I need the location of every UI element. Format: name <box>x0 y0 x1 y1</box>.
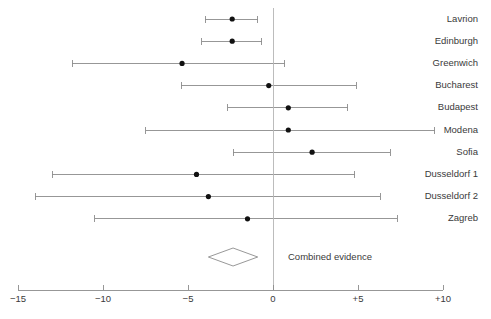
point-estimate-marker <box>179 61 184 66</box>
forest-row-label: Lavrion <box>447 13 478 24</box>
x-axis-tick-label: −5 <box>183 293 194 304</box>
summary-label: Combined evidence <box>288 251 372 262</box>
point-estimate-marker <box>230 16 235 21</box>
point-estimate-marker <box>286 105 291 110</box>
x-axis-tick-label: −10 <box>95 293 111 304</box>
x-axis-tick-label: −15 <box>10 293 26 304</box>
forest-row <box>72 60 285 67</box>
x-axis-tick-label: 0 <box>270 293 275 304</box>
forest-row-label: Sofia <box>456 146 478 157</box>
x-axis-group: −15−10−50+5+10 <box>10 285 451 304</box>
point-estimate-marker <box>206 194 211 199</box>
summary-diamond <box>208 248 257 266</box>
forest-plot-canvas: −15−10−50+5+10 LavrionEdinburghGreenwich… <box>0 0 491 319</box>
forest-row <box>95 215 398 222</box>
row-labels-group: LavrionEdinburghGreenwichBucharestBudape… <box>288 13 479 262</box>
point-estimate-marker <box>230 39 235 44</box>
point-estimate-marker <box>245 216 250 221</box>
forest-row-label: Modena <box>444 124 479 135</box>
summary-diamond-group <box>208 248 257 266</box>
forest-row <box>202 38 262 45</box>
forest-row <box>35 193 380 200</box>
forest-row-label: Greenwich <box>433 57 478 68</box>
point-estimate-marker <box>286 127 291 132</box>
point-estimate-marker <box>266 83 271 88</box>
point-estimate-marker <box>194 172 199 177</box>
forest-row-label: Dusseldorf 1 <box>425 168 478 179</box>
forest-row-label: Budapest <box>438 101 479 112</box>
x-axis-tick-label: +10 <box>435 293 451 304</box>
forest-row <box>146 127 435 134</box>
forest-row <box>52 171 355 178</box>
forest-row <box>181 82 356 89</box>
x-axis-tick-label: +5 <box>353 293 364 304</box>
forest-row-label: Zagreb <box>448 212 478 223</box>
point-estimate-marker <box>310 150 315 155</box>
forest-row <box>205 16 258 23</box>
forest-row-label: Dusseldorf 2 <box>425 190 478 201</box>
forest-row-label: Edinburgh <box>435 35 478 46</box>
forest-plot: −15−10−50+5+10 LavrionEdinburghGreenwich… <box>0 0 491 319</box>
ci-rows-group <box>35 16 435 223</box>
forest-row <box>228 104 348 111</box>
forest-row-label: Bucharest <box>435 79 478 90</box>
forest-row <box>233 149 390 156</box>
